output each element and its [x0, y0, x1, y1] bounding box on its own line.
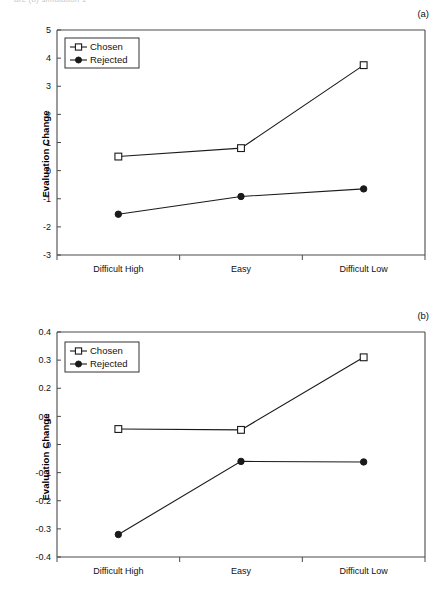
y-tick-label: -1	[43, 194, 51, 204]
legend-open-square-marker	[75, 348, 81, 354]
y-tick-label: -0.1	[35, 468, 51, 478]
open-square-marker	[115, 426, 122, 433]
filled-circle-marker	[238, 458, 244, 464]
legend-filled-circle-marker	[76, 57, 82, 63]
y-tick-label: 0.3	[38, 355, 51, 365]
legend-item-chosen: Chosen	[90, 345, 123, 356]
chart-panel-b: (b) Evaluation Change -0.4-0.3-0.2-0.100…	[0, 310, 443, 604]
y-tick-label: 3	[46, 81, 51, 91]
y-tick-label: 1	[46, 138, 51, 148]
y-tick-label: 5	[46, 25, 51, 35]
x-tick-label: Difficult Low	[339, 566, 388, 576]
y-tick-label: 0.4	[38, 327, 51, 337]
open-square-marker	[360, 62, 367, 69]
filled-circle-marker	[115, 531, 121, 537]
panel-b-plot: -0.4-0.3-0.2-0.100.10.20.30.4Difficult H…	[0, 310, 443, 604]
y-tick-label: -2	[43, 222, 51, 232]
y-tick-label: 0.2	[38, 383, 51, 393]
legend-filled-circle-marker	[76, 361, 82, 367]
open-square-marker	[360, 354, 367, 361]
y-tick-label: 0	[46, 166, 51, 176]
x-tick-label: Difficult High	[93, 264, 143, 274]
legend-item-rejected: Rejected	[90, 54, 128, 65]
figure-page: are (b) simulation 1 (a) Evaluation Chan…	[0, 0, 443, 604]
y-tick-label: 0	[46, 440, 51, 450]
filled-circle-marker	[360, 459, 366, 465]
x-tick-label: Easy	[231, 566, 252, 576]
filled-circle-marker	[115, 211, 121, 217]
legend-item-chosen: Chosen	[90, 41, 123, 52]
x-tick-label: Easy	[231, 264, 252, 274]
series-line-rejected	[118, 461, 363, 534]
filled-circle-marker	[238, 193, 244, 199]
open-square-marker	[238, 145, 245, 152]
y-tick-label: -0.3	[35, 524, 51, 534]
y-tick-label: -0.4	[35, 552, 51, 562]
y-tick-label: 4	[46, 53, 51, 63]
y-tick-label: 0.1	[38, 412, 51, 422]
legend-open-square-marker	[75, 44, 81, 50]
panel-a-plot: -3-2-1012345Difficult HighEasyDifficult …	[0, 8, 443, 300]
header-fragment-text: are (b) simulation 1	[14, 0, 86, 4]
open-square-marker	[238, 426, 245, 433]
x-tick-label: Difficult Low	[339, 264, 388, 274]
filled-circle-marker	[360, 186, 366, 192]
y-tick-label: -3	[43, 250, 51, 260]
series-line-chosen	[118, 65, 363, 156]
series-line-chosen	[118, 357, 363, 430]
chart-panel-a: (a) Evaluation Change -3-2-1012345Diffic…	[0, 8, 443, 300]
series-line-rejected	[118, 189, 363, 214]
legend-item-rejected: Rejected	[90, 358, 128, 369]
y-tick-label: 2	[46, 110, 51, 120]
y-tick-label: -0.2	[35, 496, 51, 506]
open-square-marker	[115, 153, 122, 160]
x-tick-label: Difficult High	[93, 566, 143, 576]
